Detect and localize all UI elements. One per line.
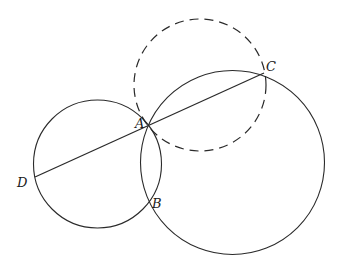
point-label-C: C xyxy=(266,59,276,74)
point-label-D: D xyxy=(16,175,28,190)
geometry-figure: A B C D xyxy=(0,0,339,279)
dashed-circle xyxy=(134,19,266,151)
large-circle xyxy=(141,71,325,255)
point-label-B: B xyxy=(151,196,162,211)
segment-DC xyxy=(35,73,264,177)
point-label-A: A xyxy=(134,116,144,131)
